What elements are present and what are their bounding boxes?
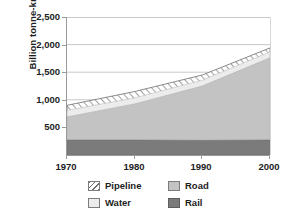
- y-tick-label-2000: 2,000: [22, 40, 60, 50]
- x-tick-2000: [269, 155, 270, 159]
- legend-item-pipeline[interactable]: Pipeline: [88, 180, 168, 191]
- x-tick-1970: [66, 155, 67, 159]
- y-axis-tick-labels: 2,500 2,000 1,500 1,000 500: [22, 0, 60, 216]
- legend-label-road: Road: [185, 180, 209, 191]
- plot-svg: [67, 17, 270, 155]
- stacked-area-chart: Billion tonne-km 2,500 2,000 1,500 1,000…: [0, 0, 291, 216]
- rail-swatch: [168, 198, 180, 208]
- legend-label-rail: Rail: [185, 197, 202, 208]
- x-tick-1980: [134, 155, 135, 159]
- legend-label-pipeline: Pipeline: [105, 180, 141, 191]
- water-swatch: [88, 198, 100, 208]
- legend-label-water: Water: [105, 197, 131, 208]
- x-tick-label-1990: 1990: [178, 161, 224, 172]
- area-rail: [67, 140, 270, 155]
- y-tick-label-2500: 2,500: [22, 12, 60, 22]
- y-tick-label-500: 500: [22, 122, 60, 132]
- plot-area: [66, 17, 271, 155]
- y-tick-label-1000: 1,000: [22, 95, 60, 105]
- x-tick-1990: [201, 155, 202, 159]
- y-tick-label-1500: 1,500: [22, 67, 60, 77]
- x-tick-label-2000: 2000: [246, 161, 291, 172]
- legend-item-rail[interactable]: Rail: [168, 197, 248, 208]
- x-axis-line: [66, 155, 270, 156]
- pipeline-swatch: [88, 181, 100, 191]
- x-tick-label-1970: 1970: [43, 161, 89, 172]
- x-tick-label-1980: 1980: [111, 161, 157, 172]
- legend-item-road[interactable]: Road: [168, 180, 248, 191]
- chart-legend: Pipeline Road Water Rail: [88, 177, 258, 211]
- legend-item-water[interactable]: Water: [88, 197, 168, 208]
- road-swatch: [168, 181, 180, 191]
